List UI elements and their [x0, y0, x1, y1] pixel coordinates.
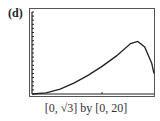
function-curve [32, 42, 154, 95]
window-caption: [0, √3] by [0, 20] [16, 101, 156, 116]
